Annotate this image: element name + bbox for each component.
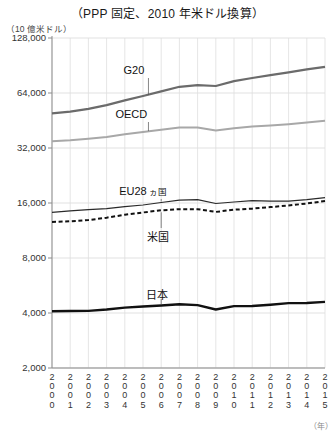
series-label-japan: 日本 — [146, 286, 168, 302]
x-tick-2006: 2 0 0 6 — [157, 373, 166, 410]
chart-figure: （PPP 固定、2010 年米ドル換算） （10 億米ドル） 2,0004,00… — [0, 0, 335, 432]
series-label-eu28-main: EU28 — [119, 185, 147, 197]
x-tick-2010: 2 0 1 0 — [230, 373, 239, 410]
x-tick-2008: 2 0 0 8 — [193, 373, 202, 410]
series-label-oecd: OECD — [115, 108, 147, 120]
y-tick-16000: 16,000 — [0, 197, 46, 208]
x-tick-2005: 2 0 0 5 — [139, 373, 148, 410]
plot-area — [0, 0, 335, 432]
x-tick-2003: 2 0 0 3 — [102, 373, 111, 410]
x-tick-2014: 2 0 1 4 — [302, 373, 311, 410]
x-tick-2007: 2 0 0 7 — [175, 373, 184, 410]
series-line-米国 — [52, 201, 325, 222]
x-tick-2000: 2 0 0 0 — [48, 373, 57, 410]
series-label-eu28: EU28 ヵ国 — [119, 185, 167, 197]
series-label-g20: G20 — [123, 64, 144, 76]
x-tick-2002: 2 0 0 2 — [84, 373, 93, 410]
y-tick-64000: 64,000 — [0, 87, 46, 98]
series-label-usa: 米国 — [147, 228, 169, 244]
series-label-eu28-suffix: ヵ国 — [147, 187, 167, 197]
y-tick-8000: 8,000 — [0, 252, 46, 263]
series-line-日本 — [52, 302, 325, 311]
x-tick-2004: 2 0 0 4 — [120, 373, 129, 410]
y-tick-32000: 32,000 — [0, 142, 46, 153]
y-tick-2000: 2,000 — [0, 362, 46, 373]
x-tick-2011: 2 0 1 1 — [248, 373, 257, 410]
y-tick-128000: 128,000 — [0, 32, 46, 43]
x-tick-2012: 2 0 1 2 — [266, 373, 275, 410]
x-tick-2013: 2 0 1 3 — [284, 373, 293, 410]
x-tick-2001: 2 0 0 1 — [66, 373, 75, 410]
x-tick-2015: 2 0 1 5 — [321, 373, 330, 410]
series-line-OECD — [52, 121, 325, 142]
x-axis-unit-label: （年） — [309, 420, 333, 431]
x-tick-2009: 2 0 0 9 — [211, 373, 220, 410]
series-line-G20 — [52, 67, 325, 114]
y-tick-4000: 4,000 — [0, 307, 46, 318]
